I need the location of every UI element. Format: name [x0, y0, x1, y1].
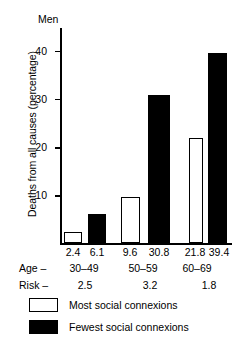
age-value-30-49: 30–49	[69, 262, 98, 274]
legend-swatch-most-icon	[29, 298, 58, 312]
legend-label-fewest: Fewest social connexions	[69, 320, 189, 334]
bar-30-49-fewest	[88, 214, 106, 243]
bar-value-label-30-8: 30.8	[149, 246, 169, 258]
bar-chart-figure: Deaths from all causes (percentage) Men …	[0, 0, 235, 360]
y-tick-label-10: 10	[35, 190, 47, 201]
age-value-60-69: 60–69	[182, 262, 211, 274]
bar-60-69-most	[189, 138, 203, 243]
risk-row-label: Risk –	[19, 279, 48, 291]
bar-series-container	[60, 28, 232, 243]
bar-30-49-most	[64, 232, 82, 244]
y-tick-label-30: 30	[35, 94, 47, 105]
x-axis-baseline	[60, 243, 232, 245]
bar-50-59-fewest	[148, 95, 170, 244]
risk-value-1: 2.5	[78, 279, 93, 291]
bar-value-label-2-4: 2.4	[66, 246, 81, 258]
plot-area: 40 30 20 10	[60, 28, 232, 245]
panel-title: Men	[38, 13, 58, 25]
age-row-label: Age –	[19, 262, 46, 274]
bar-50-59-most	[121, 197, 140, 243]
legend-label-most: Most social connexions	[69, 298, 178, 312]
risk-value-2: 3.2	[143, 279, 158, 291]
y-tick-label-40: 40	[35, 45, 47, 56]
bar-value-label-6-1: 6.1	[90, 246, 105, 258]
bar-value-label-9-6: 9.6	[123, 246, 138, 258]
y-tick-label-20: 20	[35, 142, 47, 153]
legend-swatch-fewest-icon	[29, 320, 58, 334]
bar-60-69-fewest	[208, 53, 227, 243]
age-value-50-59: 50–59	[128, 262, 157, 274]
risk-value-3: 1.8	[202, 279, 217, 291]
bar-value-label-39-4: 39.4	[209, 246, 229, 258]
bar-value-label-21-8: 21.8	[185, 246, 205, 258]
